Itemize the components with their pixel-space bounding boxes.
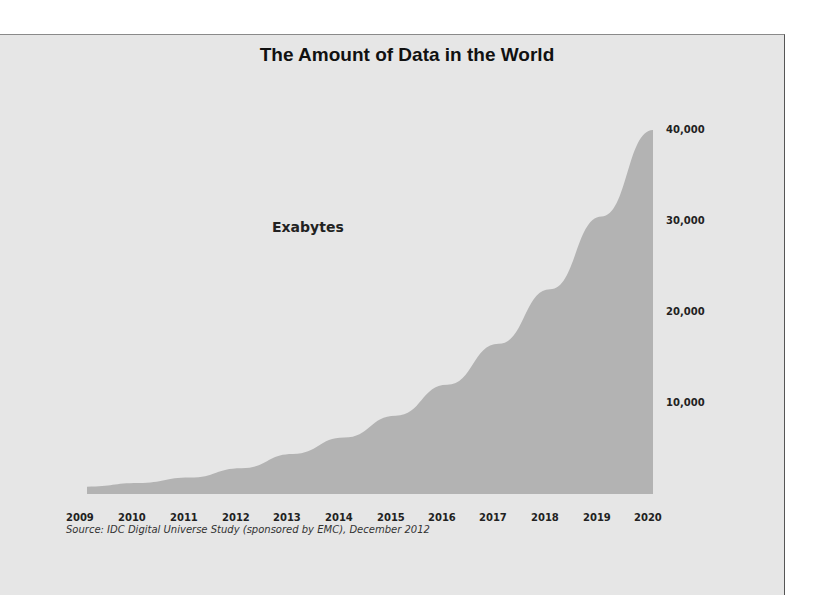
data-area xyxy=(87,130,653,494)
x-tick-label: 2015 xyxy=(377,512,405,523)
unit-label: Exabytes xyxy=(272,219,344,235)
y-tick-label: 20,000 xyxy=(666,306,705,317)
x-tick-label: 2011 xyxy=(170,512,198,523)
area-plot xyxy=(0,0,814,595)
x-tick-label: 2017 xyxy=(479,512,507,523)
y-tick-label: 40,000 xyxy=(666,124,705,135)
x-tick-label: 2014 xyxy=(325,512,353,523)
y-tick-label: 10,000 xyxy=(666,397,705,408)
x-tick-label: 2019 xyxy=(583,512,611,523)
source-note: Source: IDC Digital Universe Study (spon… xyxy=(66,524,430,535)
x-tick-label: 2020 xyxy=(634,512,662,523)
x-tick-label: 2012 xyxy=(222,512,250,523)
x-tick-label: 2018 xyxy=(531,512,559,523)
x-tick-label: 2009 xyxy=(66,512,94,523)
x-tick-label: 2013 xyxy=(273,512,301,523)
y-tick-label: 30,000 xyxy=(666,215,705,226)
x-tick-label: 2010 xyxy=(118,512,146,523)
x-tick-label: 2016 xyxy=(428,512,456,523)
